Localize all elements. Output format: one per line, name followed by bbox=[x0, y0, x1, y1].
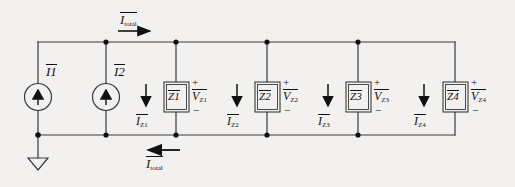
node-top-z3 bbox=[355, 39, 360, 44]
polarity-plus-z2: + bbox=[283, 76, 289, 88]
polarity-minus-z1: − bbox=[193, 104, 199, 116]
circuit-schematic bbox=[0, 0, 515, 187]
polarity-plus-z3: + bbox=[374, 76, 380, 88]
branch-current-label-z4: IZ4 bbox=[414, 114, 426, 127]
node-top-i2 bbox=[103, 39, 108, 44]
branch-current-label-z3: IZ3 bbox=[318, 114, 330, 127]
node-bottom-z1 bbox=[173, 132, 178, 137]
circuit-diagram-canvas: Itotal Itotal I1 I2 Z1 Z2 Z3 Z4 IZ1 IZ2 … bbox=[0, 0, 515, 187]
top-rail-current-label: Itotal bbox=[120, 12, 137, 26]
branch-current-label-z1: IZ1 bbox=[136, 114, 148, 127]
source-label-i1: I1 bbox=[46, 64, 57, 78]
polarity-minus-z2: − bbox=[284, 104, 290, 116]
polarity-plus-z4: + bbox=[471, 76, 477, 88]
impedance-label-z1: Z1 bbox=[168, 90, 180, 102]
node-bottom-z2 bbox=[264, 132, 269, 137]
node-top-z2 bbox=[264, 39, 269, 44]
impedance-label-z4: Z4 bbox=[447, 90, 459, 102]
impedance-label-z3: Z3 bbox=[350, 90, 362, 102]
voltage-label-z1: VZ1 bbox=[192, 89, 207, 102]
branch-current-label-z2: IZ2 bbox=[227, 114, 239, 127]
current-source-i1 bbox=[25, 84, 52, 111]
node-bottom-i2 bbox=[103, 132, 108, 137]
polarity-plus-z1: + bbox=[192, 76, 198, 88]
bottom-rail-current-label: Itotal bbox=[146, 156, 163, 170]
voltage-label-z2: VZ2 bbox=[283, 89, 298, 102]
node-top-z1 bbox=[173, 39, 178, 44]
impedance-label-z2: Z2 bbox=[259, 90, 271, 102]
current-source-i2 bbox=[93, 84, 120, 111]
voltage-label-z3: VZ3 bbox=[374, 89, 389, 102]
voltage-label-z4: VZ4 bbox=[471, 89, 486, 102]
node-bottom-z3 bbox=[355, 132, 360, 137]
ground-icon bbox=[28, 158, 48, 170]
polarity-minus-z4: − bbox=[472, 104, 478, 116]
source-label-i2: I2 bbox=[114, 64, 125, 78]
polarity-minus-z3: − bbox=[375, 104, 381, 116]
node-bottom-i1 bbox=[35, 132, 41, 138]
